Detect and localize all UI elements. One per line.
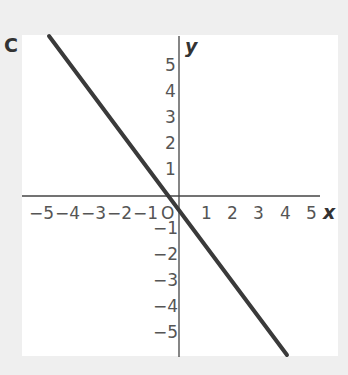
y-tick: −3 xyxy=(153,270,178,290)
coordinate-plane: −5 −4 −3 −2 −1 1 2 3 4 5 O x 5 4 3 2 1 −… xyxy=(0,0,348,375)
y-axis-label: y xyxy=(185,35,199,57)
y-tick: −1 xyxy=(153,218,178,238)
y-tick: 4 xyxy=(165,81,176,101)
x-tick: 4 xyxy=(280,203,291,223)
y-tick: −2 xyxy=(153,244,178,264)
x-axis-label: x xyxy=(322,201,336,223)
x-tick: 5 xyxy=(306,203,317,223)
x-tick: −4 xyxy=(55,203,80,223)
y-tick: 5 xyxy=(165,55,176,75)
y-tick: −5 xyxy=(153,322,178,342)
y-tick: 2 xyxy=(165,133,176,153)
y-tick: −4 xyxy=(153,296,178,316)
y-tick: 3 xyxy=(165,107,176,127)
y-tick: 1 xyxy=(165,159,176,179)
x-tick: −5 xyxy=(29,203,54,223)
x-tick: −2 xyxy=(107,203,132,223)
x-tick: 1 xyxy=(201,203,212,223)
x-tick: 3 xyxy=(253,203,264,223)
y-tick-labels: 5 4 3 2 1 −1 −2 −3 −4 −5 xyxy=(153,55,178,342)
x-tick: 2 xyxy=(227,203,238,223)
x-tick: −3 xyxy=(81,203,106,223)
